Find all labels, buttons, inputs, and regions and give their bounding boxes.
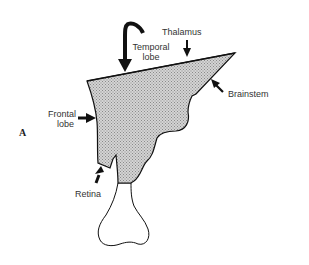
lower-bulb-region	[98, 183, 149, 246]
brainstem-label: Brainstem	[228, 89, 269, 99]
thalamus-arrowhead-icon	[183, 48, 191, 57]
thalamus-label: Thalamus	[162, 27, 202, 37]
shaded-brain-region	[87, 53, 235, 183]
temporal-lobe-label-line1: Temporal	[128, 42, 174, 52]
retina-label: Retina	[75, 189, 101, 199]
temporal-lobe-label: Temporal lobe	[128, 42, 174, 62]
frontal-lobe-label-line1: Frontal	[36, 109, 76, 119]
frontal-lobe-label-line2: lobe	[36, 119, 76, 129]
brain-region-diagram	[0, 0, 309, 265]
retina-arrow-shaft-icon	[96, 175, 99, 183]
panel-label: A	[19, 127, 26, 138]
frontal-lobe-arrowhead-icon	[86, 113, 96, 123]
retina-arrowhead-icon	[95, 166, 104, 174]
frontal-lobe-label: Frontal lobe	[36, 109, 76, 129]
temporal-lobe-label-line2: lobe	[128, 52, 174, 62]
brainstem-arrow-shaft-icon	[216, 85, 223, 92]
